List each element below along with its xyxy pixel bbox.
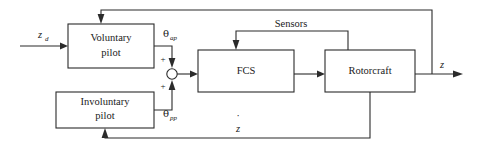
signal-label-zd-subscript: d (45, 35, 49, 43)
summing-junction (167, 69, 177, 79)
arrowhead-input-zd (60, 43, 68, 50)
signal-label-sensors: Sensors (275, 18, 308, 29)
arrowhead-theta-pp (169, 80, 176, 90)
signal-label-theta-pp: θ (163, 108, 169, 119)
arrowhead-top-feedback-z (98, 14, 105, 24)
wire-theta-pp (154, 88, 172, 110)
signal-label-theta-ap: θ (163, 28, 169, 39)
block-voluntary-pilot-label-line2: pilot (101, 47, 120, 58)
block-involuntary-pilot-label-line1: Involuntary (81, 96, 131, 107)
block-diagram: Voluntary pilot Involuntary pilot FCS Ro… (0, 0, 484, 152)
signal-label-zdot-accent: ˙ (235, 114, 240, 126)
diagram-canvas: Voluntary pilot Involuntary pilot FCS Ro… (0, 0, 484, 152)
signal-label-z-output: z (439, 59, 444, 70)
arrowhead-sensors-feedback (233, 40, 240, 50)
block-voluntary-pilot-label-line1: Voluntary (90, 32, 132, 43)
block-rotorcraft-label: Rotorcraft (348, 65, 391, 76)
block-fcs-label: FCS (237, 65, 256, 76)
arrowhead-output-z (453, 71, 463, 78)
arrowhead-sum-to-fcs (190, 71, 198, 78)
block-voluntary-pilot (68, 24, 154, 68)
wire-sensors-feedback (236, 31, 348, 50)
signal-label-theta-pp-subscript: pp (169, 114, 178, 122)
sum-sign-top: + (160, 54, 165, 64)
signal-label-zd: z (37, 29, 42, 40)
arrowhead-fcs-to-rotorcraft (317, 71, 325, 78)
arrowhead-theta-ap (169, 58, 176, 68)
sum-sign-bottom: + (160, 81, 165, 91)
signal-label-theta-ap-subscript: ap (170, 34, 178, 42)
block-involuntary-pilot-label-line2: pilot (95, 110, 114, 121)
arrowhead-bottom-feedback-zdot (102, 128, 109, 138)
